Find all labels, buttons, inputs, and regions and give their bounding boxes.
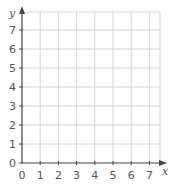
- y-tick-label: 1: [9, 138, 16, 151]
- x-tick-label: 4: [91, 169, 98, 182]
- y-tick-label: 2: [9, 119, 16, 132]
- y-tick-label: 0: [9, 157, 16, 170]
- x-tick-label: 0: [19, 169, 26, 182]
- x-tick-label: 2: [55, 169, 62, 182]
- x-tick-label: 5: [110, 169, 117, 182]
- x-axis-ticks: 01234567: [19, 161, 153, 182]
- y-tick-label: 7: [9, 24, 16, 37]
- x-tick-label: 6: [128, 169, 135, 182]
- coordinate-grid: 01234567 01234567 x y: [0, 0, 177, 191]
- y-tick-label: 6: [9, 43, 16, 56]
- y-axis-ticks: 01234567: [9, 24, 23, 170]
- y-axis-arrow-icon: [19, 6, 25, 14]
- y-axis-label: y: [8, 7, 16, 20]
- x-tick-label: 7: [146, 169, 153, 182]
- y-tick-label: 5: [9, 62, 16, 75]
- x-tick-label: 3: [73, 169, 80, 182]
- x-tick-label: 1: [37, 169, 44, 182]
- y-tick-label: 3: [9, 100, 16, 113]
- x-axis-label: x: [162, 165, 169, 178]
- grid-lines: [22, 12, 160, 163]
- y-tick-label: 4: [9, 81, 16, 94]
